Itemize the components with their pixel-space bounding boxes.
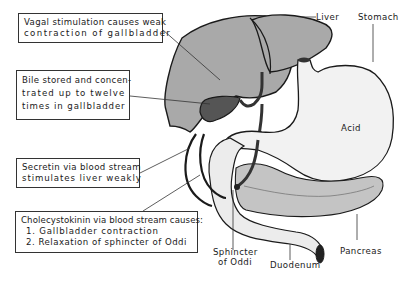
callout-bile-storage: Bile stored and concen- trated up to twe… xyxy=(16,70,130,120)
callout-cholecystokinin: Cholecystokinin via blood stream causes:… xyxy=(15,211,198,253)
callout-text: 2. Relaxation of sphincter of Oddi xyxy=(21,237,192,248)
label-duodenum: Duodenum xyxy=(270,260,321,270)
callout-text: 1. Gallbladder contraction xyxy=(21,226,192,237)
label-liver: Liver xyxy=(316,12,339,22)
callout-text: times in gallbladder xyxy=(22,100,124,113)
callout-text: Vagal stimulation causes weak xyxy=(24,17,157,28)
callout-secretin: Secretin via blood stream stimulates liv… xyxy=(16,158,140,188)
callout-text: Cholecystokinin via blood stream causes: xyxy=(21,215,192,226)
callout-vagal-stimulation: Vagal stimulation causes weak contractio… xyxy=(18,13,163,43)
callout-text: Bile stored and concen- xyxy=(22,74,124,87)
callout-text: stimulates liver weakly xyxy=(22,173,134,184)
label-stomach: Stomach xyxy=(358,12,399,22)
callout-text: contraction of gallbladder xyxy=(24,28,157,39)
callout-text: trated up to twelve xyxy=(22,87,124,100)
callout-text: Secretin via blood stream xyxy=(22,162,134,173)
sphincter-of-oddi xyxy=(234,184,240,190)
label-acid: Acid xyxy=(341,123,361,133)
label-sphincter-of-oddi: Sphincter of Oddi xyxy=(213,247,257,267)
label-sphincter-line1: Sphincter xyxy=(213,247,257,257)
label-pancreas: Pancreas xyxy=(340,246,382,256)
gallbladder xyxy=(200,96,240,121)
label-sphincter-line2: of Oddi xyxy=(213,257,257,267)
